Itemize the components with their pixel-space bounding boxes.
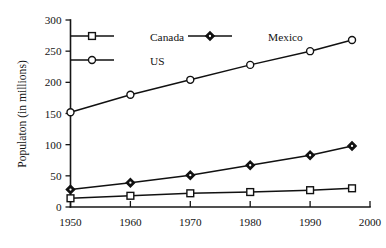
y-tick-label: 200 — [45, 76, 62, 88]
y-tick-label: 250 — [45, 45, 62, 57]
data-point-canada — [307, 187, 314, 194]
y-tick-label: 0 — [56, 201, 62, 213]
series-us — [67, 36, 356, 115]
x-tick-label: 1960 — [119, 216, 142, 228]
data-point-mexico-core — [129, 182, 131, 184]
population-line-chart: Populaton (in millions) 0501001502002503… — [0, 0, 386, 248]
legend-item-canada[interactable]: Canada — [70, 31, 184, 43]
data-point-mexico-core — [69, 188, 71, 190]
x-tick-label: 1950 — [59, 216, 82, 228]
data-point-canada — [187, 190, 194, 197]
x-tick-label: 1970 — [179, 216, 202, 228]
x-axis-ticks: 195019601970198019902000 — [59, 201, 381, 228]
legend-marker — [89, 33, 96, 40]
chart-container: Populaton (in millions) 0501001502002503… — [0, 0, 386, 248]
data-point-us — [247, 61, 254, 68]
legend-marker — [89, 57, 96, 64]
data-point-us — [127, 91, 134, 98]
legend-label: Mexico — [268, 31, 303, 43]
y-axis-title: Populaton (in millions) — [16, 60, 29, 168]
data-point-mexico-core — [249, 164, 251, 166]
series-mexico — [66, 142, 356, 194]
legend-marker-core — [209, 35, 211, 37]
x-tick-label: 1980 — [239, 216, 262, 228]
x-tick-label: 2000 — [359, 216, 382, 228]
data-point-canada — [349, 185, 356, 192]
x-tick-label: 1990 — [299, 216, 322, 228]
data-point-us — [349, 36, 356, 43]
legend-label: US — [150, 55, 165, 67]
data-point-us — [187, 76, 194, 83]
y-tick-label: 150 — [45, 108, 62, 120]
data-point-mexico-core — [189, 174, 191, 176]
legend-label: Canada — [150, 31, 184, 43]
data-point-us — [307, 48, 314, 55]
legend-item-mexico[interactable]: Mexico — [188, 31, 303, 43]
y-tick-label: 100 — [45, 139, 62, 151]
y-tick-label: 50 — [50, 170, 62, 182]
legend-item-us[interactable]: US — [70, 55, 165, 67]
series-canada — [67, 185, 355, 202]
data-point-canada — [247, 189, 254, 196]
data-point-mexico-core — [309, 154, 311, 156]
series-layer — [66, 36, 356, 201]
y-tick-label: 300 — [45, 14, 62, 26]
data-point-canada — [67, 195, 74, 202]
y-axis-title-group: Populaton (in millions) — [16, 60, 29, 168]
data-point-canada — [127, 192, 134, 199]
data-point-us — [67, 109, 74, 116]
data-point-mexico-core — [351, 145, 353, 147]
